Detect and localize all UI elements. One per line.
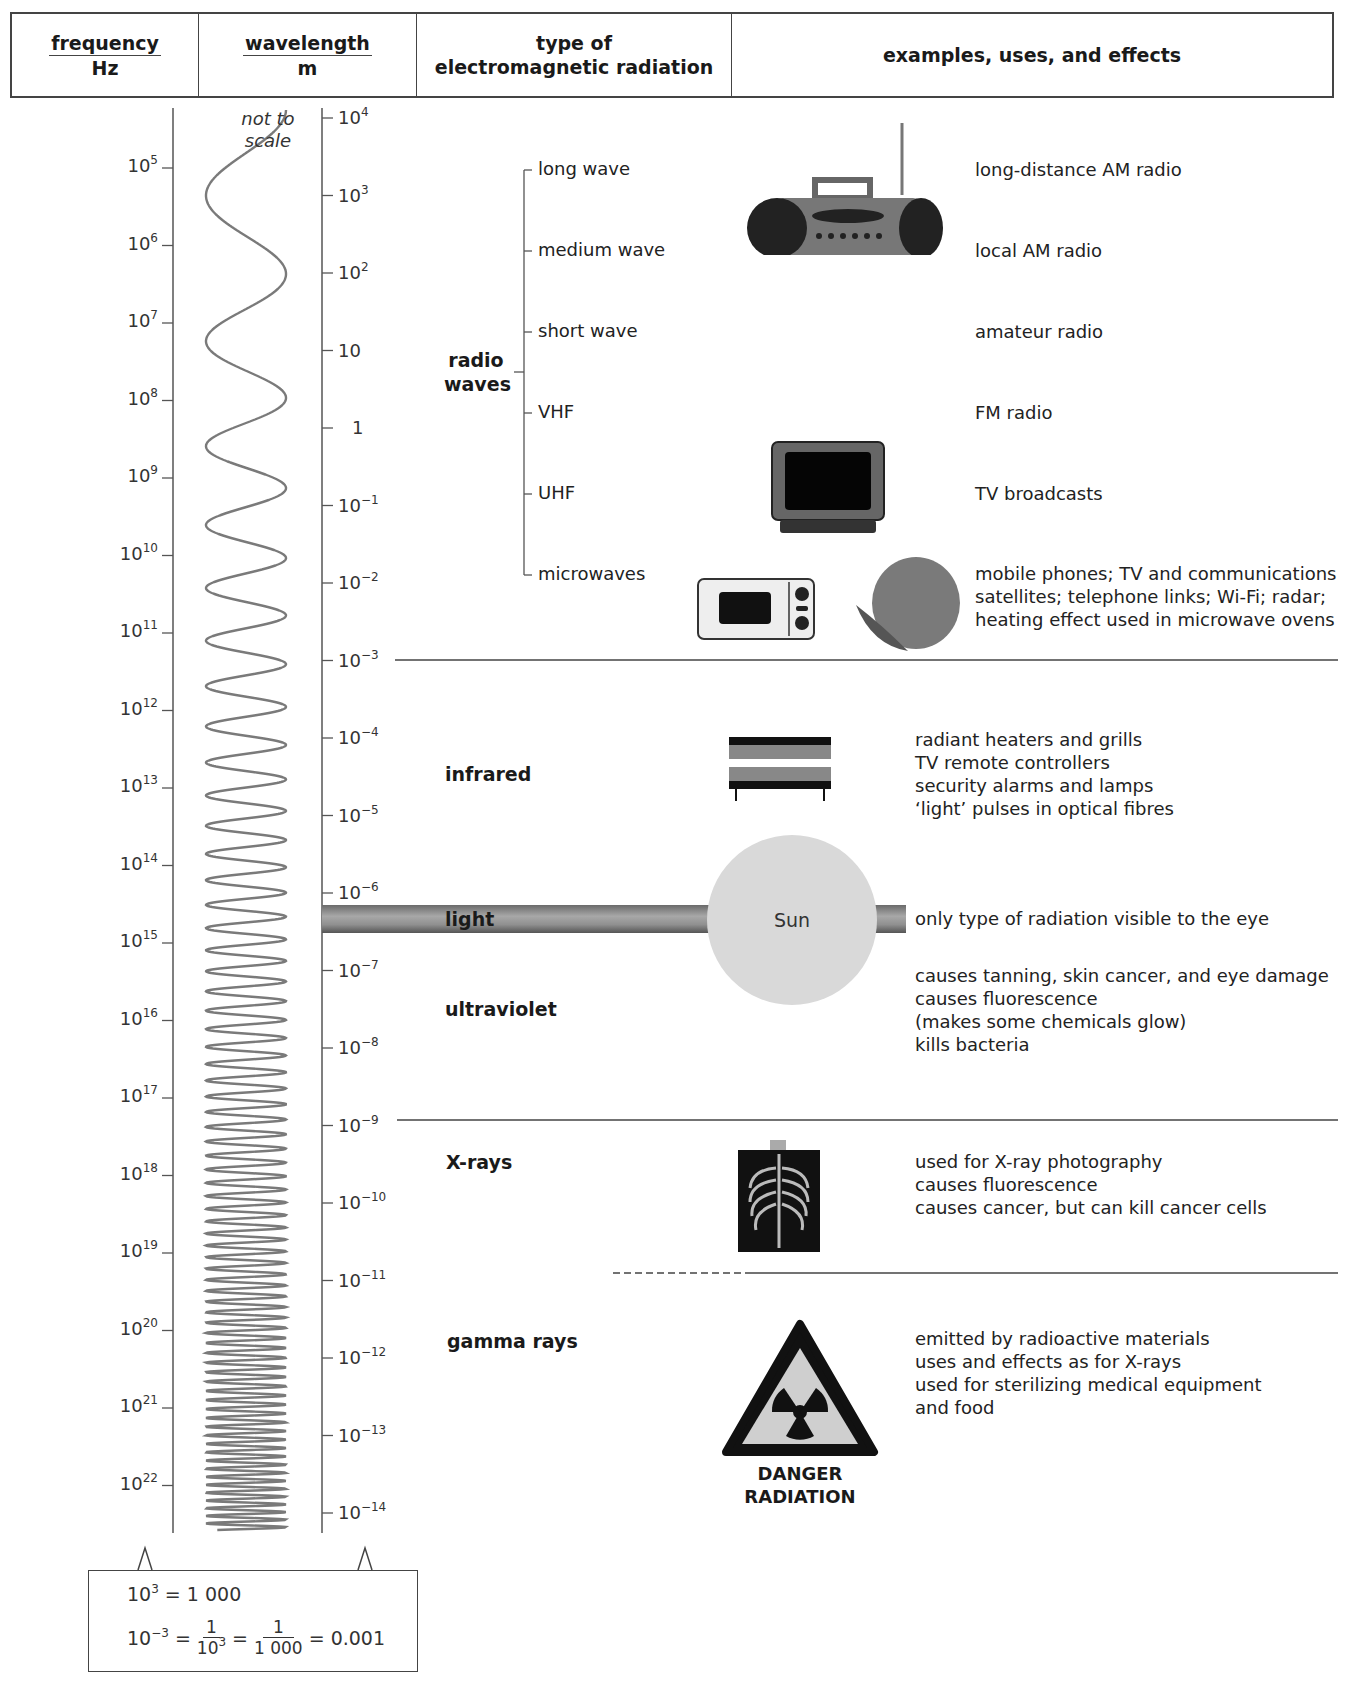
use-uhf: TV broadcasts xyxy=(975,482,1103,505)
gamma-uses: emitted by radioactive materials uses an… xyxy=(915,1327,1262,1419)
use-short-wave: amateur radio xyxy=(975,320,1103,343)
infrared-use-3: security alarms and lamps xyxy=(915,774,1174,797)
powers-of-ten-note: 103 = 1 000 10−3 = 1 103 = 1 1 000 = 0.0… xyxy=(88,1570,418,1672)
spectrum-axes xyxy=(0,0,1360,1681)
note-line1: not to xyxy=(238,108,298,130)
wavelength-tick-label: 10−4 xyxy=(338,727,379,748)
note-fraction-2: 1 1 000 xyxy=(254,1617,303,1658)
radiation-line: RADIATION xyxy=(735,1485,865,1508)
note-line2: 10−3 = 1 103 = 1 1 000 = 0.001 xyxy=(127,1617,385,1658)
uv-use-4: kills bacteria xyxy=(915,1033,1329,1056)
use-long-wave: long-distance AM radio xyxy=(975,158,1182,181)
use-microwaves-line2: satellites; telephone links; Wi-Fi; rada… xyxy=(975,585,1336,608)
frequency-tick-label: 1017 xyxy=(98,1085,158,1106)
note-rest-1: = 1 000 xyxy=(159,1583,241,1605)
xrays-uses: used for X-ray photography causes fluore… xyxy=(915,1150,1267,1219)
ultraviolet-uses: causes tanning, skin cancer, and eye dam… xyxy=(915,964,1329,1056)
note-line2: scale xyxy=(238,130,298,152)
use-medium-wave: local AM radio xyxy=(975,239,1102,262)
note-eq-2: = xyxy=(232,1627,248,1649)
frac1-den-base: 10 xyxy=(197,1638,219,1658)
sun-icon: Sun xyxy=(707,835,877,1005)
wave-icon xyxy=(206,110,286,1530)
light-label: light xyxy=(445,907,494,931)
frequency-tick-label: 1020 xyxy=(98,1318,158,1339)
wavelength-tick-label: 10−2 xyxy=(338,572,379,593)
xrays-label: X-rays xyxy=(446,1150,512,1174)
infrared-use-2: TV remote controllers xyxy=(915,751,1174,774)
subtype-uhf: UHF xyxy=(538,482,575,503)
gamma-use-4: and food xyxy=(915,1396,1262,1419)
wavelength-tick-label: 10−11 xyxy=(338,1270,386,1291)
microwave-oven-icon xyxy=(697,578,815,640)
uv-use-1: causes tanning, skin cancer, and eye dam… xyxy=(915,964,1329,987)
frequency-tick-label: 106 xyxy=(98,233,158,254)
danger-radiation-label: DANGER RADIATION xyxy=(735,1462,865,1508)
radio-label-line1: radio xyxy=(444,348,508,372)
wavelength-tick-label: 10 xyxy=(338,340,361,361)
use-microwaves-line1: mobile phones; TV and communications xyxy=(975,562,1336,585)
wavelength-tick-label: 10−6 xyxy=(338,882,379,903)
television-icon xyxy=(770,440,888,535)
infrared-uses: radiant heaters and grills TV remote con… xyxy=(915,728,1174,820)
subtype-medium-wave: medium wave xyxy=(538,239,665,260)
wavelength-tick-label: 10−13 xyxy=(338,1425,386,1446)
frac2-num: 1 xyxy=(263,1617,294,1638)
subtype-long-wave: long wave xyxy=(538,158,630,179)
note-exp-2: −3 xyxy=(151,1626,169,1640)
sun-label: Sun xyxy=(774,909,810,931)
satellite-dish-icon xyxy=(852,555,962,653)
frequency-tick-label: 1013 xyxy=(98,775,158,796)
radio-icon xyxy=(745,120,945,255)
wavelength-tick-label: 10−12 xyxy=(338,1347,386,1368)
uv-use-3: (makes some chemicals glow) xyxy=(915,1010,1329,1033)
wavelength-tick-label: 10−1 xyxy=(338,495,379,516)
wavelength-tick-label: 10−7 xyxy=(338,960,379,981)
radio-label-line2: waves xyxy=(444,372,508,396)
note-exp-1: 3 xyxy=(151,1582,159,1596)
uv-use-2: causes fluorescence xyxy=(915,987,1329,1010)
use-microwaves-line3: heating effect used in microwave ovens xyxy=(975,608,1336,631)
frequency-tick-label: 108 xyxy=(98,388,158,409)
gamma-use-3: used for sterilizing medical equipment xyxy=(915,1373,1262,1396)
frac1-den-exp: 3 xyxy=(218,1635,226,1649)
wavelength-tick-label: 10−14 xyxy=(338,1502,386,1523)
radiation-hazard-icon xyxy=(720,1318,880,1458)
use-microwaves: mobile phones; TV and communications sat… xyxy=(975,562,1336,631)
heater-icon xyxy=(729,737,833,807)
wavelength-tick-label: 10−5 xyxy=(338,805,379,826)
note-base-1: 10 xyxy=(127,1583,151,1605)
gamma-rays-label: gamma rays xyxy=(447,1329,578,1353)
note-eq-1: = xyxy=(175,1627,191,1649)
frequency-tick-label: 1019 xyxy=(98,1240,158,1261)
note-base-2: 10 xyxy=(127,1627,151,1649)
frequency-tick-label: 1016 xyxy=(98,1008,158,1029)
note-result: = 0.001 xyxy=(309,1627,385,1649)
gamma-use-2: uses and effects as for X-rays xyxy=(915,1350,1262,1373)
ultraviolet-label: ultraviolet xyxy=(445,997,557,1021)
wavelength-tick-label: 1 xyxy=(352,417,363,438)
wavelength-tick-label: 103 xyxy=(338,185,369,206)
light-band-left xyxy=(322,905,712,933)
gamma-use-1: emitted by radioactive materials xyxy=(915,1327,1262,1350)
note-fraction-1: 1 103 xyxy=(197,1617,226,1658)
wavelength-tick-label: 102 xyxy=(338,262,369,283)
wavelength-tick-label: 10−3 xyxy=(338,650,379,671)
wavelength-tick-label: 104 xyxy=(338,107,369,128)
frequency-tick-label: 1021 xyxy=(98,1395,158,1416)
wavelength-tick-label: 10−9 xyxy=(338,1115,379,1136)
frac2-den: 1 000 xyxy=(254,1638,303,1658)
frequency-tick-label: 105 xyxy=(98,155,158,176)
frequency-tick-label: 1012 xyxy=(98,698,158,719)
danger-line: DANGER xyxy=(735,1462,865,1485)
wavelength-tick-label: 10−8 xyxy=(338,1037,379,1058)
frequency-tick-label: 1015 xyxy=(98,930,158,951)
frequency-tick-label: 1011 xyxy=(98,620,158,641)
light-uses: only type of radiation visible to the ey… xyxy=(915,907,1269,930)
frequency-tick-label: 1022 xyxy=(98,1473,158,1494)
chest-xray-icon xyxy=(738,1140,822,1253)
frequency-tick-label: 1014 xyxy=(98,853,158,874)
radio-waves-label: radio waves xyxy=(444,348,508,396)
use-vhf: FM radio xyxy=(975,401,1052,424)
frequency-tick-label: 1010 xyxy=(98,543,158,564)
